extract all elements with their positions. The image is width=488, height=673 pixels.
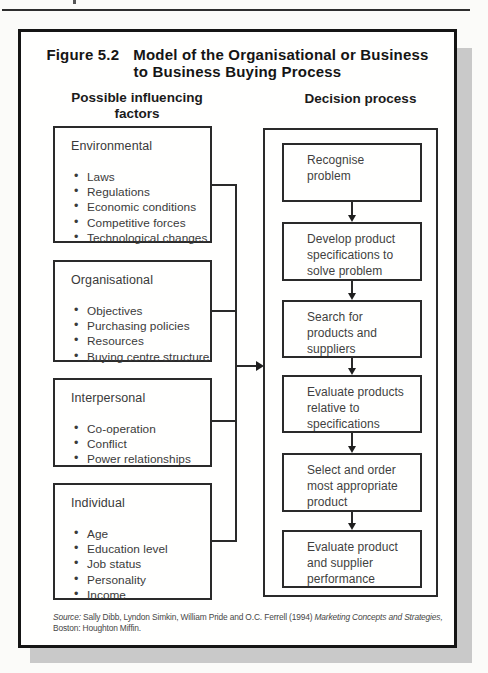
arrow-down-icon <box>348 523 356 530</box>
bullet-item: Economic conditions <box>74 200 210 215</box>
bullet-item: Laws <box>74 170 210 185</box>
source-line1: Source: Sally Dibb, Lyndon Simkin, Willi… <box>53 612 451 623</box>
step-select-and-order: Select and order most appropriate produc… <box>282 453 422 512</box>
step-search-products-suppliers: Search for products and suppliers <box>282 300 422 358</box>
bullet-item: Resources <box>74 334 210 349</box>
arrow-down-icon <box>348 293 356 300</box>
bullet-item: Objectives <box>74 304 210 319</box>
bullet-item: Regulations <box>74 185 210 200</box>
bullet-item: Technological changes <box>74 231 210 246</box>
step-develop-specifications: Develop product specifications to solve … <box>282 222 422 281</box>
factor-bullet-list: LawsRegulationsEconomic conditionsCompet… <box>55 170 210 246</box>
bullet-item: Buying centre structure <box>74 350 210 365</box>
arrow-down-icon <box>348 368 356 375</box>
source-prefix: Source: <box>53 612 81 622</box>
left-header-line1: Possible influencing <box>57 90 217 106</box>
bullet-item: Personality <box>74 573 210 588</box>
bullet-item: Purchasing policies <box>74 319 210 334</box>
left-header-line2: factors <box>57 106 217 122</box>
figure-title-line1: Model of the Organisational or Business <box>133 46 428 63</box>
bullet-item: Power relationships <box>74 452 210 467</box>
step-evaluate-products: Evaluate products relative to specificat… <box>282 375 422 433</box>
factor-bullet-list: Co-operationConflictPower relationships <box>55 422 210 468</box>
factor-heading: Individual <box>71 496 210 510</box>
factor-heading: Environmental <box>71 139 210 153</box>
factor-box-individual: Individual AgeEducation levelJob statusP… <box>53 483 212 600</box>
factor-bullet-list: AgeEducation levelJob statusPersonalityI… <box>55 527 210 603</box>
source-book-title: Marketing Concepts and Strategies, <box>315 612 443 622</box>
arrow-down-icon <box>348 446 356 453</box>
step-recognise-problem: Recognise problem <box>282 143 422 202</box>
factor-box-environmental: Environmental LawsRegulationsEconomic co… <box>53 126 212 243</box>
arrow-down-icon <box>348 215 356 222</box>
connector-line-organisational <box>212 310 235 312</box>
bullet-item: Competitive forces <box>74 216 210 231</box>
page-edge-artifact <box>73 0 76 4</box>
factor-heading: Interpersonal <box>71 391 210 405</box>
source-line2: Boston: Houghton Miffin. <box>53 623 451 634</box>
connector-line-interpersonal <box>212 420 235 422</box>
figure-title: Figure 5.2Model of the Organisational or… <box>21 46 454 63</box>
bullet-item: Income <box>74 588 210 603</box>
figure-number-label: Figure 5.2 <box>46 46 119 63</box>
column-header-influencing-factors: Possible influencing factors <box>57 90 217 121</box>
connector-line-environmental <box>212 184 235 186</box>
connector-trunk-line <box>235 184 237 542</box>
factor-box-interpersonal: Interpersonal Co-operationConflictPower … <box>53 378 212 467</box>
bullet-item: Co-operation <box>74 422 210 437</box>
flow-arrow-line <box>351 433 353 447</box>
flow-arrow-line <box>351 202 353 216</box>
bullet-item: Education level <box>74 542 210 557</box>
column-header-decision-process: Decision process <box>273 91 448 107</box>
bullet-item: Age <box>74 527 210 542</box>
factor-box-organisational: Organisational ObjectivesPurchasing poli… <box>53 260 212 362</box>
step-evaluate-performance: Evaluate product and supplier performanc… <box>282 530 422 588</box>
bullet-item: Job status <box>74 557 210 572</box>
source-authors: Sally Dibb, Lyndon Simkin, William Pride… <box>81 612 315 622</box>
figure-title-line2: to Business Buying Process <box>21 63 454 80</box>
factor-heading: Organisational <box>71 273 210 287</box>
influence-arrow-line <box>235 365 257 367</box>
connector-line-individual <box>212 540 235 542</box>
source-note: Source: Sally Dibb, Lyndon Simkin, Willi… <box>53 612 451 634</box>
factor-bullet-list: ObjectivesPurchasing policiesResourcesBu… <box>55 304 210 365</box>
bullet-item: Conflict <box>74 437 210 452</box>
figure-frame: Figure 5.2Model of the Organisational or… <box>18 29 457 648</box>
page-top-rule <box>2 9 470 11</box>
